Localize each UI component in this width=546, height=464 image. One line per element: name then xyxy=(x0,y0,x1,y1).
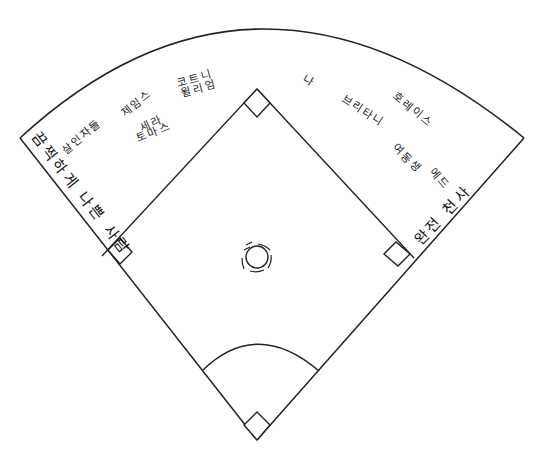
home-plate xyxy=(244,412,270,440)
infield-arc xyxy=(203,344,319,371)
diamond-first-to-second xyxy=(257,89,414,258)
baseball-field-diagram xyxy=(0,0,546,464)
right-foul-line xyxy=(257,138,524,440)
first-base xyxy=(384,242,410,266)
left-foul-line xyxy=(20,138,257,440)
pitchers-mound xyxy=(242,242,271,272)
second-base xyxy=(244,89,270,117)
